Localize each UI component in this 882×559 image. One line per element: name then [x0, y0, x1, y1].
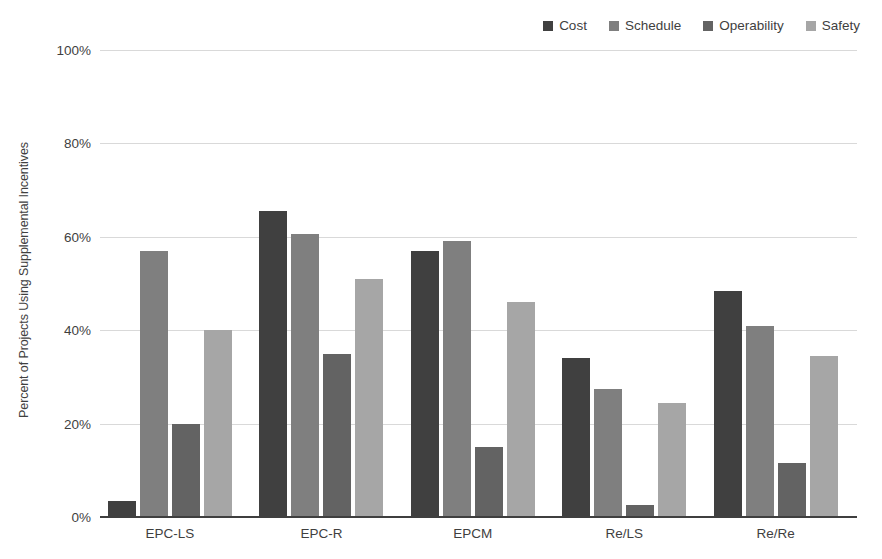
legend-item-label: Schedule: [625, 19, 681, 33]
bar-epc-ls-safety: [204, 330, 232, 517]
y-axis-tick-label: 80%: [64, 136, 91, 151]
plot-area: 100%80%60%40%20%0% EPC-LSEPC-REPCMRe/LSR…: [100, 50, 857, 517]
y-axis-tick-label: 100%: [56, 43, 91, 58]
legend-item-label: Safety: [822, 19, 860, 33]
chart-legend: CostScheduleOperabilitySafety: [0, 19, 860, 33]
y-axis-tick-label: 60%: [64, 229, 91, 244]
bar-epcm-cost: [411, 251, 439, 517]
bar-re-ls-schedule: [594, 389, 622, 517]
y-axis-tick-label: 40%: [64, 323, 91, 338]
legend-item-schedule[interactable]: Schedule: [609, 19, 681, 33]
bar-epc-r-operability: [323, 354, 351, 517]
bar-epc-ls-operability: [172, 424, 200, 517]
y-axis-tick-label: 20%: [64, 416, 91, 431]
bar-epcm-safety: [507, 302, 535, 517]
bar-epc-ls-cost: [108, 501, 136, 517]
x-axis-tick-label: EPC-LS: [146, 526, 195, 541]
legend-item-label: Cost: [559, 19, 587, 33]
bar-epcm-schedule: [443, 241, 471, 517]
legend-swatch-icon: [609, 21, 619, 31]
bar-re-re-safety: [810, 356, 838, 517]
x-axis-tick-label: EPC-R: [300, 526, 342, 541]
x-axis-line: [100, 516, 857, 518]
legend-item-operability[interactable]: Operability: [703, 19, 784, 33]
bar-re-re-cost: [714, 291, 742, 517]
legend-item-safety[interactable]: Safety: [806, 19, 860, 33]
y-axis-title-label: Percent of Projects Using Supplemental I…: [17, 142, 31, 418]
bar-re-ls-cost: [562, 358, 590, 517]
x-axis-tick-label: Re/LS: [605, 526, 643, 541]
legend-swatch-icon: [703, 21, 713, 31]
bar-epc-r-cost: [259, 211, 287, 517]
legend-item-cost[interactable]: Cost: [543, 19, 587, 33]
legend-swatch-icon: [543, 21, 553, 31]
bar-epc-r-schedule: [291, 234, 319, 517]
bar-re-re-schedule: [746, 326, 774, 517]
y-axis-title: Percent of Projects Using Supplemental I…: [14, 0, 34, 559]
legend-swatch-icon: [806, 21, 816, 31]
bar-epc-ls-schedule: [140, 251, 168, 517]
bar-series-container: [100, 50, 857, 517]
bar-re-re-operability: [778, 463, 806, 517]
x-axis-tick-label: EPCM: [453, 526, 492, 541]
bar-chart: CostScheduleOperabilitySafety Percent of…: [0, 0, 882, 559]
legend-item-label: Operability: [719, 19, 784, 33]
bar-epcm-operability: [475, 447, 503, 517]
y-axis-tick-label: 0%: [71, 510, 91, 525]
bar-epc-r-safety: [355, 279, 383, 517]
bar-re-ls-safety: [658, 403, 686, 517]
x-axis-tick-label: Re/Re: [756, 526, 794, 541]
